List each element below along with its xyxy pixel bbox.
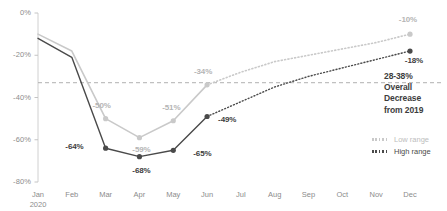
y-axis-label: 0% xyxy=(0,8,31,17)
series-line-low-range-forecast xyxy=(207,34,410,85)
chart-plot-area xyxy=(0,0,447,211)
legend-item-high-range[interactable]: High range xyxy=(372,145,447,157)
y-axis-label: -20% xyxy=(0,50,31,59)
data-point-marker[interactable] xyxy=(204,82,209,87)
data-point-marker[interactable] xyxy=(171,118,176,123)
x-axis-label-line2: 2020 xyxy=(18,200,58,210)
chart-container: 0%-20%-40%-60%-80% Jan2020FebMarAprMayJu… xyxy=(0,0,447,211)
data-point-marker[interactable] xyxy=(171,148,176,153)
data-point-label: -59% xyxy=(121,145,161,154)
legend-label-low-range: Low range xyxy=(394,135,429,144)
data-point-marker[interactable] xyxy=(407,32,412,37)
data-point-marker[interactable] xyxy=(103,146,108,151)
y-axis-label: -40% xyxy=(0,93,31,102)
x-axis-label-line1: Dec xyxy=(390,190,430,200)
series-line-high-range-actual xyxy=(38,38,207,156)
x-axis-label: Dec xyxy=(390,190,430,200)
data-point-label: -50% xyxy=(82,101,122,110)
data-point-label: -34% xyxy=(183,67,223,76)
data-point-marker[interactable] xyxy=(204,114,209,119)
data-point-label: -65% xyxy=(193,149,211,158)
annotation-line: from 2019 xyxy=(384,105,446,116)
data-point-label: -51% xyxy=(151,103,191,112)
overall-decrease-annotation: 28-38%OverallDecreasefrom 2019 xyxy=(384,71,446,116)
annotation-line: Overall xyxy=(384,82,446,93)
annotation-line: 28-38% xyxy=(384,71,446,82)
y-axis-label: -80% xyxy=(0,177,31,186)
legend-swatch-low-range-icon xyxy=(372,138,389,141)
y-axis-label: -60% xyxy=(0,135,31,144)
data-point-marker[interactable] xyxy=(137,135,142,140)
data-point-marker[interactable] xyxy=(103,116,108,121)
series-line-high-range-forecast xyxy=(207,51,410,116)
data-point-label: -18% xyxy=(394,56,434,65)
chart-legend: Low range High range xyxy=(372,133,447,157)
data-point-label: -64% xyxy=(54,142,84,151)
data-point-marker[interactable] xyxy=(137,154,142,159)
legend-item-low-range[interactable]: Low range xyxy=(372,133,447,145)
legend-swatch-high-range-icon xyxy=(372,150,389,153)
legend-label-high-range: High range xyxy=(394,147,431,156)
data-point-label: -68% xyxy=(121,166,161,175)
data-point-label: -10% xyxy=(388,15,428,24)
data-point-marker[interactable] xyxy=(407,48,412,53)
data-point-label: -49% xyxy=(218,115,236,124)
series-line-low-range-actual xyxy=(38,34,207,138)
annotation-line: Decrease xyxy=(384,93,446,104)
